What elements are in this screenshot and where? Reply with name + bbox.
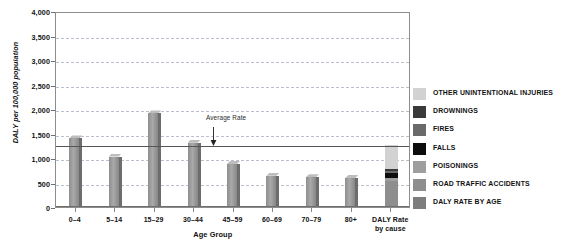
plot-area: Average Rate xyxy=(55,12,410,208)
legend-label: OTHER UNINTENTIONAL INJURIES xyxy=(433,89,553,96)
stacked-segment xyxy=(385,181,398,207)
legend-swatch xyxy=(413,124,426,136)
bar-side xyxy=(158,113,161,207)
x-axis-tick-mark xyxy=(193,208,194,212)
bar xyxy=(109,157,122,207)
legend-label: FALLS xyxy=(433,144,456,151)
bar-side xyxy=(316,177,319,207)
x-axis-tick-mark xyxy=(233,208,234,212)
stacked-label-line1: DALY Rate xyxy=(362,215,418,224)
bar xyxy=(306,177,319,207)
bar-face xyxy=(306,177,316,207)
y-axis-tick-label: 0 xyxy=(2,204,50,213)
average-rate-arrow-icon xyxy=(210,127,217,143)
y-axis-tick-label: 4,000 xyxy=(2,8,50,17)
y-axis-tick-label: 3,500 xyxy=(2,32,50,41)
x-axis-tick-mark xyxy=(390,208,391,212)
average-rate-label: Average Rate xyxy=(206,114,246,121)
bar-face xyxy=(148,113,158,207)
bar-side xyxy=(79,138,82,207)
bar xyxy=(69,138,82,207)
x-axis-line xyxy=(56,206,409,207)
x-axis-tick-mark xyxy=(114,208,115,212)
legend-label: POISONINGS xyxy=(433,162,478,169)
x-axis-tick-mark xyxy=(75,208,76,212)
x-axis-tick-mark xyxy=(154,208,155,212)
x-axis-title: Age Group xyxy=(113,230,313,239)
gridline xyxy=(56,87,409,88)
y-axis-tick-label: 3,000 xyxy=(2,57,50,66)
legend-swatch xyxy=(413,106,426,118)
gridline xyxy=(56,111,409,112)
stacked-column-label: DALY Rateby cause xyxy=(362,215,418,233)
y-axis-tick-mark xyxy=(51,208,55,209)
bar-side xyxy=(119,157,122,207)
stacked-label-line2: by cause xyxy=(362,224,418,233)
gridline xyxy=(56,62,409,63)
bar-face xyxy=(109,157,119,207)
bar-side xyxy=(198,143,201,207)
stacked-segment xyxy=(385,145,398,170)
gridline xyxy=(56,136,409,137)
stacked-segment xyxy=(385,171,398,173)
bar-face xyxy=(345,178,355,207)
legend-swatch xyxy=(413,179,426,191)
bar xyxy=(345,178,358,207)
bar-face xyxy=(227,164,237,207)
y-axis-tick-label: 1,000 xyxy=(2,155,50,164)
stacked-segment xyxy=(385,178,398,181)
stacked-segment xyxy=(385,169,398,171)
legend-swatch xyxy=(413,161,426,173)
legend-label: FIRES xyxy=(433,125,454,132)
legend-label: DROWNINGS xyxy=(433,107,478,114)
legend-swatch xyxy=(413,88,426,100)
bar xyxy=(227,164,240,207)
legend-label: DALY RATE BY AGE xyxy=(433,198,502,205)
bar-side xyxy=(237,164,240,207)
legend-swatch xyxy=(413,143,426,155)
y-axis-tick-label: 1,500 xyxy=(2,130,50,139)
bar-side xyxy=(276,176,279,207)
stacked-bar xyxy=(385,145,398,207)
bar-side xyxy=(355,178,358,207)
x-axis-tick-mark xyxy=(351,208,352,212)
bar-face xyxy=(266,176,276,207)
legend-label: ROAD TRAFFIC ACCIDENTS xyxy=(433,180,530,187)
bar-face xyxy=(188,143,198,207)
bar xyxy=(266,176,279,207)
gridline xyxy=(56,38,409,39)
y-axis-tick-label: 2,500 xyxy=(2,81,50,90)
bar-face xyxy=(69,138,79,207)
x-axis-tick-mark xyxy=(272,208,273,212)
y-axis-tick-label: 2,000 xyxy=(2,106,50,115)
chart-root: DALY per 100,000 population 05001,0001,5… xyxy=(0,0,576,250)
x-axis-tick-mark xyxy=(311,208,312,212)
bar xyxy=(148,113,161,207)
average-rate-line xyxy=(56,146,409,147)
legend-swatch xyxy=(413,197,426,209)
y-axis-tick-label: 500 xyxy=(2,179,50,188)
stacked-segment xyxy=(385,173,398,178)
bar xyxy=(188,143,201,207)
